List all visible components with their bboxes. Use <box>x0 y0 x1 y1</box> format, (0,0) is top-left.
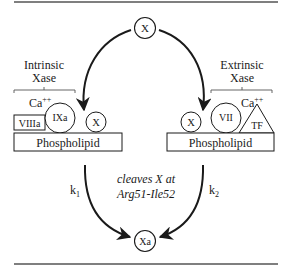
rate-constant-k1: k1 <box>70 183 80 199</box>
extrinsic-calcium-label: Ca++ <box>241 95 264 110</box>
extrinsic-bracket <box>211 87 272 93</box>
intrinsic-complex: VIIIa IXa X Phospholipid <box>14 103 122 151</box>
svg-text:Extrinsic: Extrinsic <box>220 58 263 72</box>
svg-text:X: X <box>187 117 195 128</box>
factor-xa-node: Xa <box>135 231 156 252</box>
svg-text:Phospholipid: Phospholipid <box>36 136 99 150</box>
svg-text:IXa: IXa <box>53 112 69 123</box>
svg-text:X: X <box>141 22 149 34</box>
svg-text:VIIIa: VIIIa <box>19 118 41 129</box>
arrow-to-intrinsic <box>83 30 131 110</box>
svg-text:Phospholipid: Phospholipid <box>189 136 252 150</box>
rate-constant-k2: k2 <box>209 183 219 199</box>
factor-x-node: X <box>135 18 156 39</box>
cleavage-note: cleaves X at Arg51-Ile52 <box>116 172 176 201</box>
svg-text:Xase: Xase <box>32 71 56 85</box>
xase-complex-diagram: X Intrinsic Xase Extrinsic Xase Ca++ Ca+… <box>0 0 290 274</box>
extrinsic-xase-label: Extrinsic Xase <box>220 58 263 85</box>
intrinsic-bracket <box>14 87 75 93</box>
svg-text:Arg51-Ile52: Arg51-Ile52 <box>116 187 175 201</box>
extrinsic-complex: X VII TF Phospholipid <box>167 103 274 151</box>
svg-text:X: X <box>92 117 100 128</box>
svg-text:Xa: Xa <box>139 236 151 247</box>
svg-text:TF: TF <box>251 120 263 131</box>
svg-text:Xase: Xase <box>230 71 254 85</box>
svg-text:cleaves X at: cleaves X at <box>117 172 176 186</box>
svg-text:Intrinsic: Intrinsic <box>24 58 64 72</box>
arrow-to-extrinsic <box>159 30 204 110</box>
intrinsic-xase-label: Intrinsic Xase <box>24 58 64 85</box>
svg-text:VII: VII <box>219 112 233 123</box>
